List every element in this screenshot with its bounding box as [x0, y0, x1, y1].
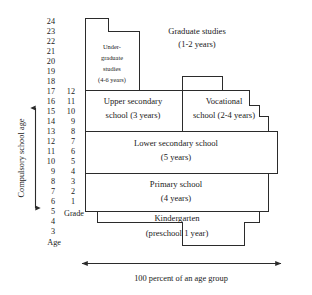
- age-group-scale-label: 100 percent of an age group: [134, 274, 228, 283]
- age-tick: 16: [47, 97, 55, 106]
- upper-secondary-line1: Upper secondary: [104, 96, 163, 106]
- block-undergraduate-studies: Under- graduate studies (4-6 years): [98, 43, 126, 84]
- block-primary-school: Primary school (4 years): [150, 179, 203, 203]
- age-tick: 13: [47, 127, 55, 136]
- graduate-studies-line2: (1-2 years): [178, 39, 216, 49]
- grade-tick: 9: [71, 117, 75, 126]
- age-axis-caption: Age: [47, 238, 61, 247]
- grade-tick: 10: [67, 107, 75, 116]
- horizontal-scale-group: 100 percent of an age group: [82, 264, 281, 284]
- age-tick: 17: [47, 87, 55, 96]
- compulsory-school-age-bracket: Compulsory school age: [17, 108, 36, 208]
- grade-tick: 2: [71, 187, 75, 196]
- grade-tick: 7: [71, 137, 75, 146]
- grade-tick: 1: [71, 197, 75, 206]
- grade-tick: 3: [71, 177, 75, 186]
- vocational-line1: Vocational: [206, 96, 243, 106]
- kindergarten-line1: Kindergarten: [154, 213, 200, 223]
- undergraduate-studies-line4: (4-6 years): [98, 76, 126, 84]
- compulsory-school-age-label: Compulsory school age: [17, 118, 26, 197]
- grade-axis-ticks: 12 11 10 9 8 7 6 5 4 3 2 1 Grade: [64, 87, 84, 218]
- grade-tick: 12: [67, 87, 75, 96]
- lower-secondary-line1: Lower secondary school: [134, 138, 219, 148]
- age-tick: 21: [47, 47, 55, 56]
- age-tick: 15: [47, 107, 55, 116]
- grade-tick: 11: [67, 97, 75, 106]
- age-tick: 12: [47, 137, 55, 146]
- undergraduate-studies-line2: graduate: [101, 54, 123, 61]
- age-tick: 14: [47, 117, 55, 126]
- age-tick: 7: [51, 187, 55, 196]
- age-tick: 24: [47, 17, 55, 26]
- block-upper-secondary-school: Upper secondary school (3 years): [104, 96, 163, 120]
- grade-tick: 8: [71, 127, 75, 136]
- primary-school-line2: (4 years): [161, 193, 191, 203]
- grade-tick: 4: [71, 167, 75, 176]
- age-tick: 9: [51, 167, 55, 176]
- undergraduate-studies-line3: studies: [103, 65, 121, 72]
- age-tick: 18: [47, 77, 55, 86]
- grade-axis-caption: Grade: [64, 209, 84, 218]
- kindergarten-line2: (preschool 1 year): [146, 228, 209, 238]
- age-tick: 5: [51, 207, 55, 216]
- block-kindergarten: Kindergarten (preschool 1 year): [146, 213, 209, 238]
- block-vocational-school: Vocational school (2-4 years): [193, 96, 255, 120]
- lower-secondary-line2: (5 years): [161, 152, 191, 162]
- age-tick: 6: [51, 197, 55, 206]
- age-tick: 23: [47, 27, 55, 36]
- age-tick: 22: [47, 37, 55, 46]
- education-system-diagram: 24 23 22 21 20 19 18 17 16 15 14 13 12 1…: [0, 0, 312, 295]
- age-tick: 19: [47, 67, 55, 76]
- age-tick: 8: [51, 177, 55, 186]
- age-tick: 3: [51, 227, 55, 236]
- age-tick: 20: [47, 57, 55, 66]
- grade-tick: 5: [71, 157, 75, 166]
- graduate-studies-line1: Graduate studies: [168, 26, 226, 36]
- age-axis-ticks: 24 23 22 21 20 19 18 17 16 15 14 13 12 1…: [47, 17, 62, 247]
- block-lower-secondary-school: Lower secondary school (5 years): [134, 138, 219, 162]
- diagram-outline-group: [85, 18, 277, 245]
- primary-school-line1: Primary school: [150, 179, 203, 189]
- vocational-line2: school (2-4 years): [193, 110, 255, 120]
- age-tick: 4: [51, 217, 55, 226]
- age-tick: 11: [47, 147, 55, 156]
- block-graduate-studies: Graduate studies (1-2 years): [168, 26, 226, 49]
- upper-secondary-line2: school (3 years): [106, 110, 161, 120]
- age-tick: 10: [47, 157, 55, 166]
- undergraduate-studies-line1: Under-: [103, 43, 121, 50]
- grade-tick: 6: [71, 147, 75, 156]
- diagram-canvas: 24 23 22 21 20 19 18 17 16 15 14 13 12 1…: [0, 0, 312, 295]
